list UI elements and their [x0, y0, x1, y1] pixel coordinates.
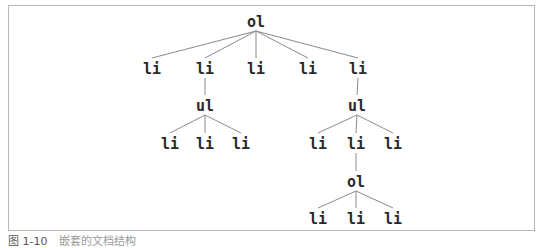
tree-edge [256, 31, 308, 58]
tree-node-li: li [309, 210, 327, 228]
tree-node-li: li [143, 60, 161, 78]
tree-node-li: li [247, 60, 265, 78]
tree-edge [318, 115, 357, 133]
figure-number: 图 1-10 [8, 235, 47, 248]
tree-edge [356, 191, 393, 208]
tree-edge [205, 115, 241, 133]
tree-node-li: li [232, 135, 250, 153]
tree-node-li: li [161, 135, 179, 153]
tree-node-ol: ol [247, 13, 265, 31]
tree-node-li: li [196, 60, 214, 78]
tree-edge [357, 78, 358, 95]
tree-node-li: li [384, 210, 402, 228]
tree-node-li: li [347, 135, 365, 153]
figure-caption-text: 嵌套的文档结构 [59, 235, 136, 248]
tree-node-li: li [349, 60, 367, 78]
tree-edge [256, 31, 358, 58]
tree-node-li: li [299, 60, 317, 78]
tree-edge [356, 115, 357, 133]
tree-node-li: li [384, 135, 402, 153]
tree-nodes: ollililililiullililiullililiollilili [143, 13, 402, 228]
tree-node-ul: ul [196, 97, 214, 115]
tree-edge [152, 31, 256, 58]
tree-edge [318, 191, 356, 208]
tree-node-ol: ol [347, 173, 365, 191]
tree-node-ul: ul [348, 97, 366, 115]
tree-node-li: li [347, 210, 365, 228]
tree-node-li: li [309, 135, 327, 153]
tree-edge [170, 115, 205, 133]
figure-caption: 图 1-10 嵌套的文档结构 [8, 236, 136, 248]
tree-edge [357, 115, 393, 133]
tree-edge [205, 31, 256, 58]
tree-node-li: li [196, 135, 214, 153]
